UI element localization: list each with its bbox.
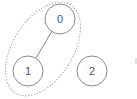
clipped-edge-artifact <box>135 58 137 64</box>
node-2-label: 2 <box>89 65 95 77</box>
graph-canvas: 0 1 2 <box>0 0 137 99</box>
node-2[interactable]: 2 <box>77 56 107 86</box>
node-0-label: 0 <box>57 13 63 25</box>
edge-0-1 <box>36 31 52 58</box>
node-0[interactable]: 0 <box>45 4 75 34</box>
node-1[interactable]: 1 <box>13 56 43 86</box>
node-1-label: 1 <box>25 65 31 77</box>
